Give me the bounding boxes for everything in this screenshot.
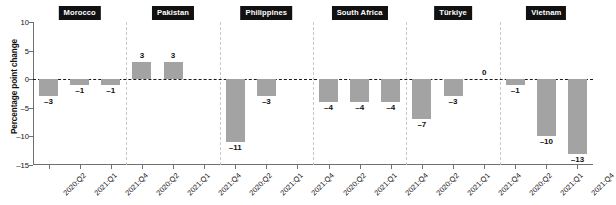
bar-value-label: –7 <box>406 120 438 129</box>
x-tick-label: 2021:Q4 <box>123 171 149 197</box>
bar-value-label: 3 <box>157 51 189 60</box>
bar-value-label: –13 <box>561 155 593 164</box>
x-tick-label: 2021:Q4 <box>590 171 616 197</box>
bar <box>412 79 431 119</box>
x-tick-mark <box>577 165 578 169</box>
plot-area: 1050–5–10–15 –3–1–133–11–3–4–4–4–7–30–1–… <box>33 22 593 165</box>
x-tick-label: 2021:Q4 <box>216 171 242 197</box>
bar <box>381 79 400 102</box>
x-tick-label: 2021:Q1 <box>92 171 118 197</box>
bar <box>101 79 120 85</box>
bar-value-label: –3 <box>250 97 282 106</box>
bar-value-label: –1 <box>499 86 531 95</box>
y-axis-line <box>33 22 34 165</box>
bar <box>70 79 89 85</box>
x-tick-label: 2021:Q4 <box>496 171 522 197</box>
y-tick-label: 5 <box>11 47 29 56</box>
group-separator <box>313 22 314 165</box>
bar-value-label: –1 <box>64 86 96 95</box>
x-tick-mark <box>329 165 330 169</box>
bar <box>444 79 463 96</box>
bar <box>164 62 183 79</box>
x-tick-mark <box>422 165 423 169</box>
x-tick-label: 2020:Q2 <box>248 171 274 197</box>
y-tick-label: –10 <box>11 132 29 141</box>
x-tick-mark <box>297 165 298 169</box>
bar <box>568 79 587 153</box>
bar-value-label: –10 <box>530 137 562 146</box>
bar <box>257 79 276 96</box>
x-tick-label: 2021:Q1 <box>372 171 398 197</box>
x-tick-label: 2020:Q2 <box>341 171 367 197</box>
x-tick-label: 2021:Q1 <box>185 171 211 197</box>
x-tick-mark <box>515 165 516 169</box>
x-tick-mark <box>111 165 112 169</box>
bar-value-label: –4 <box>375 103 407 112</box>
x-tick-mark <box>484 165 485 169</box>
y-tick-mark <box>29 165 33 166</box>
y-tick-mark <box>29 136 33 137</box>
bar <box>132 62 151 79</box>
x-tick-label: 2020:Q2 <box>61 171 87 197</box>
group-label-pakistan: Pakistan <box>152 6 194 20</box>
x-tick-mark <box>266 165 267 169</box>
y-tick-label: –5 <box>11 104 29 113</box>
group-label-morocco: Morocco <box>58 6 100 20</box>
bar-value-label: –4 <box>313 103 345 112</box>
x-tick-mark <box>142 165 143 169</box>
bar <box>350 79 369 102</box>
x-tick-label: 2021:Q1 <box>559 171 585 197</box>
bar-value-label: –3 <box>33 97 65 106</box>
bar-value-label: 0 <box>468 68 500 77</box>
group-separator <box>406 22 407 165</box>
y-tick-mark <box>29 51 33 52</box>
bar <box>319 79 338 102</box>
y-tick-label: –15 <box>11 161 29 170</box>
x-tick-mark <box>80 165 81 169</box>
x-tick-label: 2020:Q2 <box>528 171 554 197</box>
group-label-türkiye: Türkiye <box>434 6 472 20</box>
y-tick-label: 0 <box>11 75 29 84</box>
x-tick-mark <box>453 165 454 169</box>
y-tick-label: 10 <box>11 18 29 27</box>
x-tick-label: 2021:Q1 <box>465 171 491 197</box>
x-tick-label: 2021:Q1 <box>279 171 305 197</box>
x-tick-mark <box>546 165 547 169</box>
bar <box>39 79 58 96</box>
x-tick-label: 2020:Q2 <box>154 171 180 197</box>
x-tick-mark <box>204 165 205 169</box>
group-label-philippines: Philippines <box>241 6 293 20</box>
x-tick-mark <box>391 165 392 169</box>
x-tick-mark <box>49 165 50 169</box>
x-tick-mark <box>360 165 361 169</box>
x-tick-label: 2020:Q2 <box>434 171 460 197</box>
x-tick-mark <box>173 165 174 169</box>
bar <box>537 79 556 136</box>
x-tick-label: 2021:Q4 <box>310 171 336 197</box>
bar-value-label: –11 <box>219 143 251 152</box>
bar-value-label: –3 <box>437 97 469 106</box>
group-label-south-africa: South Africa <box>332 6 388 20</box>
group-label-vietnam: Vietnam <box>526 6 566 20</box>
bar <box>226 79 245 142</box>
x-tick-mark <box>235 165 236 169</box>
bar-value-label: 3 <box>126 51 158 60</box>
bar-value-label: –4 <box>344 103 376 112</box>
y-tick-mark <box>29 22 33 23</box>
x-tick-label: 2021:Q4 <box>403 171 429 197</box>
bar <box>506 79 525 85</box>
y-tick-mark <box>29 108 33 109</box>
bar-value-label: –1 <box>95 86 127 95</box>
